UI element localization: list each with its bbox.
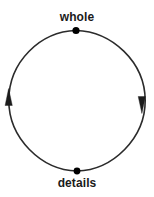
cycle-arc-left <box>9 31 77 172</box>
cycle-arc-right <box>76 31 145 172</box>
node-label-whole: whole <box>0 10 154 24</box>
node-dot-details <box>74 168 81 175</box>
node-label-details: details <box>0 176 154 190</box>
arrow-up-icon <box>5 89 12 106</box>
cycle-diagram-canvas <box>0 0 154 197</box>
node-dot-whole <box>72 27 79 34</box>
cycle-diagram: whole details <box>0 0 154 197</box>
